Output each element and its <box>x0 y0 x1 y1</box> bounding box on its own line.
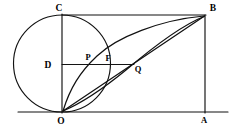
point-label-B: B <box>210 3 217 13</box>
point-label-F: F <box>105 53 110 63</box>
point-label-O: O <box>57 116 64 126</box>
point-label-D: D <box>45 60 52 70</box>
point-label-A: A <box>201 115 208 125</box>
point-label-Q: Q <box>135 64 142 74</box>
point-label-C: C <box>56 3 63 13</box>
point-label-P: P <box>85 52 90 62</box>
figure-canvas: C B D P F Q O A <box>0 0 233 129</box>
geometry-figure: C B D P F Q O A <box>0 0 233 129</box>
